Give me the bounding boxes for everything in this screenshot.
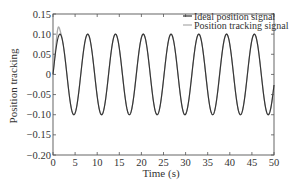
x-tick-label: 0 [50, 157, 55, 168]
y-tick-label: 0 [46, 69, 51, 80]
y-tick-label: −0.15 [27, 129, 51, 140]
x-axis-label: Time (s) [142, 167, 180, 180]
series-layer [53, 27, 274, 115]
x-tick-label: 5 [72, 157, 77, 168]
y-axis-label: Position tracking [7, 48, 19, 123]
y-tick-label: −0.20 [27, 150, 51, 161]
y-axis-ticks: 0.150.100.050−0.05−0.10−0.15−0.20 [27, 9, 274, 161]
x-tick-label: 35 [202, 157, 213, 168]
y-tick-label: −0.05 [27, 89, 51, 100]
y-tick-label: 0.10 [33, 29, 51, 40]
x-tick-label: 10 [92, 157, 103, 168]
legend: Ideal position signal Position tracking … [183, 11, 289, 31]
x-tick-label: 40 [225, 157, 236, 168]
series-position-tracking [53, 27, 274, 115]
y-tick-label: 0.05 [33, 49, 51, 60]
y-tick-label: 0.15 [33, 9, 51, 20]
x-tick-label: 50 [269, 157, 280, 168]
x-tick-label: 30 [180, 157, 191, 168]
position-tracking-chart: 05101520253035404550 0.150.100.050−0.05−… [0, 0, 293, 188]
x-tick-label: 15 [114, 157, 125, 168]
legend-label-tracking: Position tracking signal [194, 20, 289, 31]
y-tick-label: −0.10 [27, 109, 51, 120]
x-tick-label: 45 [247, 157, 258, 168]
